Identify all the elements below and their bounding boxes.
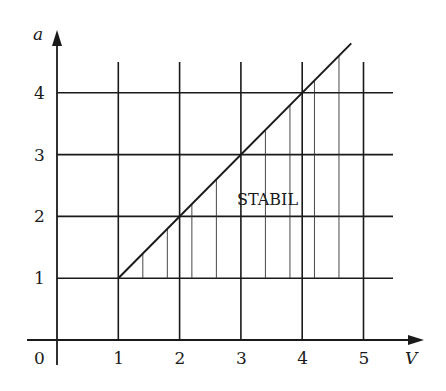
x-tick-3: 3 <box>236 348 247 368</box>
grid-lines <box>57 62 393 340</box>
y-axis-arrow-icon <box>52 30 62 46</box>
y-tick-4: 4 <box>34 83 45 103</box>
origin-label: 0 <box>34 348 45 368</box>
x-axis-arrow-icon <box>408 335 424 345</box>
y-axis-label: a <box>33 24 43 44</box>
boundary-line <box>118 43 351 278</box>
diagram: a V 0 1 2 3 4 5 1 2 3 4 STABIL <box>0 0 446 391</box>
stability-chart: a V 0 1 2 3 4 5 1 2 3 4 STABIL <box>0 0 446 391</box>
y-tick-2: 2 <box>34 206 45 226</box>
x-tick-4: 4 <box>297 348 308 368</box>
stable-region-label: STABIL <box>237 190 298 209</box>
x-tick-5: 5 <box>359 348 370 368</box>
axes <box>27 30 424 365</box>
axis-labels: a V 0 1 2 3 4 5 1 2 3 4 STABIL <box>33 24 419 368</box>
x-axis-label: V <box>405 348 419 368</box>
x-tick-2: 2 <box>175 348 186 368</box>
y-tick-1: 1 <box>34 268 45 288</box>
y-tick-3: 3 <box>34 145 45 165</box>
x-tick-1: 1 <box>113 348 124 368</box>
